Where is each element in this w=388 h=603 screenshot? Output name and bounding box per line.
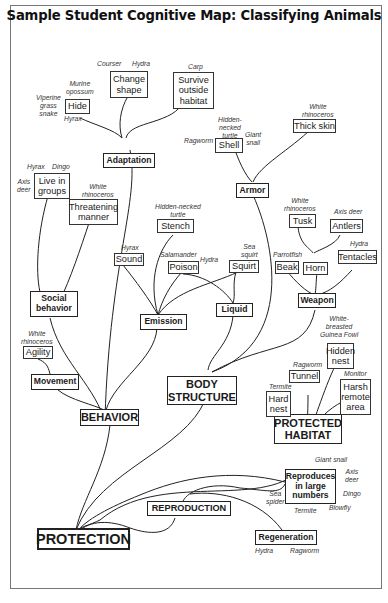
example-axis-deer-repro: Axis deer	[345, 468, 359, 484]
example-termite-repro: Termite	[294, 507, 316, 515]
example-ragworm-shell: Ragworm	[184, 137, 213, 145]
node-body-structure: BODY STRUCTURE	[167, 376, 237, 405]
node-tentacles: Tentacles	[338, 250, 377, 264]
node-agility: Agility	[23, 346, 53, 359]
node-poison: Poison	[168, 261, 199, 274]
example-hidden-necked-turtle-stench: Hidden-necked turtle	[155, 203, 201, 219]
node-hidden-nest: Hidden nest	[327, 343, 354, 369]
example-parrotfish: Parrotfish	[273, 251, 302, 259]
node-adaptation: Adaptation	[103, 153, 155, 168]
example-white-rhino-skin: White rhinoceros	[302, 103, 334, 119]
node-survive-outside-habitat: Survive outside habitat	[173, 72, 214, 109]
node-tusk: Tusk	[289, 214, 316, 228]
example-hydra-change: Hydra	[132, 60, 150, 68]
example-hyrax-groups: Hyrax	[27, 163, 45, 171]
example-axis-deer-groups: Axis deer	[17, 178, 31, 194]
node-change-shape: Change shape	[110, 71, 148, 98]
example-sea-squirt: Sea squirt	[241, 243, 258, 259]
example-salamander: Salamander	[160, 251, 197, 259]
example-white-rhino-tusk: White rhinoceros	[284, 197, 316, 213]
example-hidden-necked-turtle-shell: Hidden- necked turtle	[218, 116, 242, 139]
node-hard-nest: Hard nest	[266, 391, 291, 417]
node-hide: Hide	[65, 99, 90, 114]
node-protection: PROTECTION	[37, 528, 130, 550]
node-emission: Emission	[140, 314, 187, 330]
example-white-rhino-agility: White rhinoceros	[21, 330, 53, 346]
example-monitor: Monitor	[344, 370, 367, 378]
example-hyrax-hide: Hyrax	[64, 115, 82, 123]
node-reproduces-large-numbers: Reproduces in large numbers	[285, 469, 336, 504]
node-live-in-groups: Live in groups	[34, 173, 70, 199]
node-armor: Armor	[236, 183, 269, 198]
node-horn: Horn	[303, 262, 328, 275]
example-axis-deer-antlers: Axis deer	[334, 208, 362, 216]
node-behavior: BEHAVIOR	[80, 409, 139, 426]
example-ragworm-tunnel: Ragworm	[293, 361, 322, 369]
node-antlers: Antlers	[330, 219, 363, 233]
node-shell: Shell	[215, 138, 243, 153]
example-white-rhino-threat: White rhinoceros	[82, 183, 114, 199]
node-movement: Movement	[31, 374, 79, 390]
example-hyrax-sound: Hyrax	[121, 244, 139, 252]
example-hydra-regen: Hydra	[255, 547, 273, 555]
example-termite-nest: Termite	[269, 383, 291, 391]
example-viperine-grass-snake: Viperine grass snake	[36, 94, 61, 117]
node-harsh-remote-area: Harsh remote area	[340, 379, 371, 415]
node-social-behavior: Social behavior	[30, 291, 78, 317]
node-stench: Stench	[157, 219, 194, 233]
node-tunnel: Tunnel	[289, 370, 320, 383]
node-regeneration: Regeneration	[255, 530, 317, 545]
node-squirt: Squirt	[229, 260, 259, 273]
example-hydra-tentacles: Hydra	[350, 240, 368, 248]
node-liquid: Liquid	[216, 303, 253, 317]
node-reproduction: REPRODUCTION	[147, 501, 231, 516]
example-giant-snail-repro: Giant snail	[315, 456, 347, 464]
example-hydra-poison: Hydra	[200, 256, 218, 264]
node-threatening-manner: Threatening manner	[69, 199, 118, 225]
example-giant-snail-shell: Giant snail	[245, 131, 261, 147]
example-murine-opossum: Murine opossum	[66, 80, 94, 96]
example-sea-spider: Sea spider	[266, 490, 285, 506]
example-ragworm-regen: Ragworm	[290, 547, 319, 555]
node-thick-skin: Thick skin	[293, 119, 336, 133]
example-dingo-groups: Dingo	[52, 163, 70, 171]
example-courser: Courser	[97, 60, 121, 68]
example-dingo-repro: Dingo	[343, 490, 361, 498]
example-carp: Carp	[188, 63, 203, 71]
node-weapon: Weapon	[298, 293, 336, 308]
node-beak: Beak	[275, 261, 299, 274]
node-sound: Sound	[114, 253, 144, 266]
example-blowfly: Blowfly	[329, 504, 351, 512]
example-white-breasted-guinea-fowl: White- breasted Guinea Fowl	[320, 315, 358, 338]
node-protected-habitat: PROTECTED HABITAT	[274, 414, 342, 444]
